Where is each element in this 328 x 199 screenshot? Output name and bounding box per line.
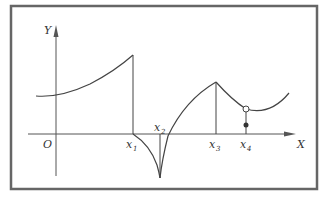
y-axis-label: Y xyxy=(44,24,53,37)
svg-text:2: 2 xyxy=(160,128,166,136)
curve-segment-1 xyxy=(36,55,133,96)
label-x4: x 4 xyxy=(240,138,251,153)
curve-segment-4 xyxy=(216,82,289,111)
function-graph: Y X O x 1 x 2 x 3 x 4 xyxy=(0,0,328,199)
filled-point-icon xyxy=(244,123,249,128)
x-axis-label: X xyxy=(296,138,306,151)
svg-text:x: x xyxy=(154,121,161,134)
x-axis-arrow-icon xyxy=(284,132,296,137)
svg-text:x: x xyxy=(209,138,216,151)
origin-label: O xyxy=(43,138,52,151)
svg-text:3: 3 xyxy=(216,145,221,153)
svg-text:1: 1 xyxy=(133,145,137,153)
svg-text:x: x xyxy=(240,138,247,151)
label-x2: x 2 xyxy=(154,121,166,136)
y-axis-arrow-icon xyxy=(54,25,59,37)
curve-segment-3 xyxy=(160,82,216,178)
label-x3: x 3 xyxy=(209,138,221,153)
svg-text:x: x xyxy=(126,138,133,151)
curve-segment-2 xyxy=(133,134,160,178)
open-point-icon xyxy=(243,106,249,112)
label-x1: x 1 xyxy=(126,138,137,153)
svg-text:4: 4 xyxy=(246,145,251,153)
